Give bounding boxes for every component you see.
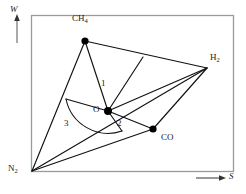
vertex-label-co: CO bbox=[161, 133, 174, 142]
vertex-label-n2-text: N bbox=[8, 163, 15, 173]
edge-ch4-n2 bbox=[32, 41, 85, 171]
edge-co-h2 bbox=[153, 68, 207, 129]
vertex-label-h2-sub: 2 bbox=[217, 56, 220, 63]
edge-ch4-h2 bbox=[85, 41, 207, 68]
vertex-label-co-text: CO bbox=[161, 132, 174, 142]
vertex-label-h2-text: H bbox=[210, 52, 217, 62]
diagram-figure: W S CH4 H2 CO N2 O 1 2 3 bbox=[0, 0, 246, 194]
s-axis-arrow bbox=[196, 175, 226, 181]
edge-ch4-o bbox=[85, 41, 108, 111]
dot-o bbox=[104, 107, 112, 115]
region-label-3: 3 bbox=[64, 119, 69, 128]
vertex-label-h2: H2 bbox=[210, 53, 220, 62]
vertex-label-ch4-text: CH bbox=[72, 13, 85, 23]
w-axis-label: W bbox=[10, 5, 18, 14]
diagram-canvas bbox=[0, 0, 246, 194]
w-axis-arrow bbox=[14, 14, 20, 43]
vertex-label-n2: N2 bbox=[8, 164, 18, 173]
s-axis-label: S bbox=[229, 172, 234, 181]
region-label-2: 2 bbox=[117, 119, 122, 128]
region-label-1: 1 bbox=[101, 79, 106, 88]
dot-ch4 bbox=[81, 37, 88, 44]
plot-frame bbox=[32, 16, 234, 172]
edge-o-h2 bbox=[108, 68, 207, 111]
segment-sector-top bbox=[66, 99, 108, 111]
diagram-edges bbox=[32, 41, 207, 171]
dot-co bbox=[149, 125, 156, 132]
vertex-label-ch4-sub: 4 bbox=[85, 17, 88, 24]
vertex-label-n2-sub: 2 bbox=[15, 167, 18, 174]
vertex-label-ch4: CH4 bbox=[72, 14, 88, 23]
vertex-label-o: O bbox=[93, 105, 100, 114]
